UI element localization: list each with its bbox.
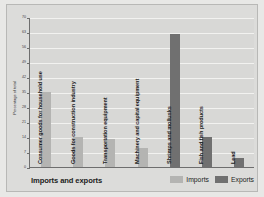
y-tick-label: 21 [22, 121, 26, 125]
bar-category-label: Fish and fish products [198, 106, 204, 164]
bar-category-label: Goods for construction industry [70, 81, 76, 164]
bar-series: Consumer goods for household useGoods fo… [30, 18, 254, 167]
y-tick-label: 7 [24, 151, 26, 155]
y-tick-label: 14 [22, 136, 26, 140]
y-tick-label: 70 [22, 16, 26, 20]
chart-figure: Percentage of total 07142128354249566370… [0, 0, 264, 197]
bar-category-label: Transportation equipment [102, 97, 108, 164]
chart-card: Percentage of total 07142128354249566370… [6, 4, 258, 192]
bar-category-label: Machinery and capital equipment [134, 79, 140, 164]
legend-swatch [215, 176, 228, 183]
bar-category-label: Consumer goods for household use [37, 71, 43, 164]
chart-footer: Imports and exports ImportsExports [29, 171, 254, 191]
legend-item: Exports [215, 176, 254, 183]
legend-swatch [170, 176, 183, 183]
y-tick-label: 56 [22, 46, 26, 50]
bar-category-label: Lead [230, 151, 236, 164]
chart-title: Imports and exports [31, 176, 102, 185]
legend-item: Imports [170, 176, 209, 183]
legend-label: Imports [186, 176, 209, 183]
legend-label: Exports [231, 176, 254, 183]
bar-category-label: Shrimps and mollusks [166, 106, 172, 164]
y-tick-mark [27, 168, 30, 169]
y-tick-label: 35 [22, 91, 26, 95]
y-tick-label: 42 [22, 76, 26, 80]
y-axis-label: Percentage of total [12, 81, 17, 115]
plot-area: 07142128354249566370 Consumer goods for … [29, 18, 254, 168]
y-tick-label: 28 [22, 106, 26, 110]
y-tick-label: 63 [22, 31, 26, 35]
y-tick-label: 49 [22, 61, 26, 65]
y-tick-label: 0 [24, 166, 26, 170]
chart-legend: ImportsExports [170, 176, 254, 183]
